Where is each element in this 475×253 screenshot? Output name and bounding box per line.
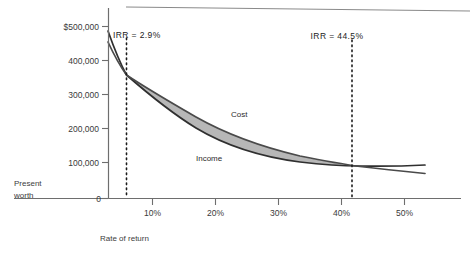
x-axis-ticks — [153, 199, 405, 206]
x-tick-label-20: 20% — [207, 208, 224, 218]
x-tick-label-40: 40% — [333, 208, 350, 218]
irr-low-annotation-label: IRR = 2.9% — [113, 30, 161, 40]
y-tick-label-400000: 400,000 — [68, 56, 99, 66]
y-axis-ticks — [102, 27, 109, 199]
shaded-band-cost-income — [127, 75, 353, 166]
page-top-rule — [126, 7, 470, 11]
series-label-income: Income — [196, 154, 223, 163]
y-tick-label-200000: 200,000 — [68, 124, 99, 134]
y-tick-label-500000: $500,000 — [64, 22, 100, 32]
x-axis-title: Rate of return — [100, 234, 149, 243]
y-tick-label-300000: 300,000 — [68, 90, 99, 100]
chart-figure: $500,000 400,000 300,000 200,000 100,000… — [0, 0, 475, 253]
series-line-cost — [108, 31, 425, 166]
series-label-cost: Cost — [231, 110, 248, 119]
x-tick-label-50: 50% — [396, 208, 413, 218]
y-tick-label-100000: 100,000 — [68, 158, 99, 168]
x-tick-label-10: 10% — [144, 208, 161, 218]
y-axis-title-line2: worth — [13, 191, 34, 200]
present-worth-chart: $500,000 400,000 300,000 200,000 100,000… — [0, 0, 475, 253]
y-tick-label-0: 0 — [96, 194, 101, 204]
x-tick-label-30: 30% — [270, 208, 287, 218]
irr-high-annotation-label: IRR = 44.5% — [311, 31, 364, 41]
y-axis-title-line1: Present — [14, 179, 42, 188]
